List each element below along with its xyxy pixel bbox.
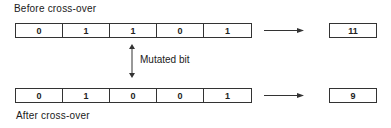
- after-crossover-label: After cross-over: [16, 110, 90, 121]
- after-bit-0: 0: [16, 89, 63, 102]
- before-bit-2: 1: [110, 24, 157, 37]
- after-bit-3: 0: [157, 89, 204, 102]
- after-bit-2: 0: [110, 89, 157, 102]
- before-crossover-label: Before cross-over: [14, 3, 96, 14]
- after-decimal-value: 9: [329, 88, 377, 103]
- mutated-bit-label: Mutated bit: [140, 54, 189, 65]
- right-arrow-icon: [264, 92, 304, 99]
- before-chromosome: 0 1 1 0 1: [15, 23, 252, 38]
- after-bit-4: 1: [204, 89, 251, 102]
- before-decimal-value: 11: [329, 23, 377, 38]
- before-bit-3: 0: [157, 24, 204, 37]
- after-chromosome: 0 1 0 0 1: [15, 88, 252, 103]
- before-bit-1: 1: [63, 24, 110, 37]
- after-bit-1: 1: [63, 89, 110, 102]
- double-vertical-arrow-icon: [128, 44, 136, 78]
- before-bit-4: 1: [204, 24, 251, 37]
- right-arrow-icon: [264, 27, 304, 34]
- before-bit-0: 0: [16, 24, 63, 37]
